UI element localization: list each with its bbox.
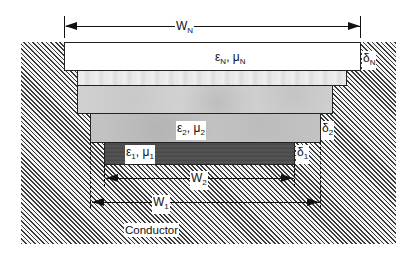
w1-right-extension — [320, 142, 321, 208]
w2-label: W2 — [190, 171, 208, 190]
delta-n-label: δN — [362, 51, 376, 70]
layer-intermediate-upper — [77, 70, 347, 86]
w1-label: W1 — [152, 195, 170, 214]
w1-dimension-line — [92, 202, 320, 203]
wn-dimension-line — [66, 26, 360, 27]
wn-right-tick — [360, 16, 361, 38]
bottom-margin — [0, 244, 418, 256]
layer-n — [64, 42, 361, 71]
wn-left-arrow-icon — [65, 22, 77, 30]
layer-1-properties-label: ε1, μ1 — [125, 145, 155, 164]
w2-left-arrow-icon — [106, 174, 118, 182]
layer-n-properties-label: εN, μN — [214, 50, 247, 69]
delta-2-label: δ2 — [321, 121, 334, 140]
wn-label: WN — [175, 19, 194, 38]
wn-right-arrow-icon — [348, 22, 360, 30]
w1-left-extension — [90, 142, 91, 208]
w1-left-arrow-icon — [92, 198, 104, 206]
w2-left-extension — [104, 164, 105, 187]
w1-right-arrow-icon — [307, 198, 319, 206]
delta-1-label: δ1 — [296, 145, 309, 164]
layer-intermediate-lower — [77, 85, 333, 114]
w2-right-extension — [294, 164, 295, 187]
w2-right-arrow-icon — [281, 174, 293, 182]
layer-2-properties-label: ε2, μ2 — [176, 121, 206, 140]
conductor-label: Conductor — [124, 223, 179, 237]
